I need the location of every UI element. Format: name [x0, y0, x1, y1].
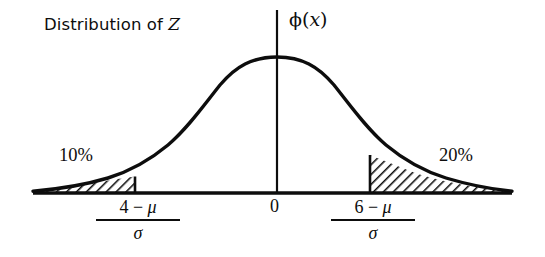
right-boundary-fraction-label: 6 − μ σ	[331, 198, 415, 243]
y-axis-label: ϕ(x)	[289, 8, 328, 30]
left-fraction-numerator: 4 − μ	[96, 198, 180, 218]
left-fraction-value: 4	[119, 197, 128, 217]
figure-title-text: Distribution of	[44, 15, 168, 34]
left-fraction-bar	[96, 219, 180, 221]
left-fraction-mu: μ	[148, 197, 157, 217]
figure-title: Distribution of Z	[44, 14, 180, 34]
normal-curve	[33, 57, 512, 191]
y-axis-label-variable: x	[309, 8, 320, 30]
origin-tick-label: 0	[270, 196, 279, 217]
left-fraction-denominator: σ	[96, 223, 180, 243]
left-tail-percent-label: 10%	[59, 145, 93, 166]
figure-title-variable: Z	[168, 14, 180, 34]
y-axis-label-suffix: )	[320, 8, 327, 30]
normal-curve-plot	[0, 0, 545, 257]
y-axis-label-prefix: ϕ(	[289, 8, 309, 30]
right-fraction-denominator: σ	[331, 223, 415, 243]
right-fraction-bar	[331, 219, 415, 221]
right-fraction-value: 6	[354, 197, 363, 217]
right-tail-percent-label: 20%	[439, 145, 473, 166]
left-boundary-fraction-label: 4 − μ σ	[96, 198, 180, 243]
left-fraction-minus: −	[133, 197, 143, 217]
right-fraction-mu: μ	[383, 197, 392, 217]
right-fraction-numerator: 6 − μ	[331, 198, 415, 218]
distribution-figure: Distribution of Z ϕ(x) 10% 20% 0 4 − μ σ…	[0, 0, 545, 257]
right-fraction-minus: −	[368, 197, 378, 217]
